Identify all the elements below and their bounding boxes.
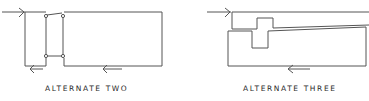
caption-alternate-three: ALTERNATE THREE (243, 84, 337, 93)
node (61, 14, 64, 17)
alternate-two-diagram (2, 8, 162, 73)
right-loop (64, 12, 162, 66)
caption-alternate-two: ALTERNATE TWO (45, 84, 128, 93)
node (44, 54, 47, 57)
node (61, 54, 64, 57)
left-loop (25, 12, 46, 66)
upper-strip (232, 12, 369, 29)
node (44, 14, 47, 17)
alternate-three-diagram (207, 8, 369, 73)
lower-loop (228, 27, 366, 66)
